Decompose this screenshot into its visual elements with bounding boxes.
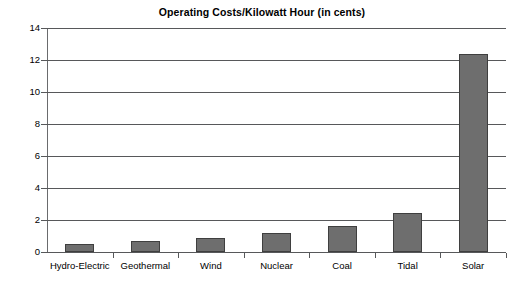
x-tick-mark (440, 253, 441, 258)
x-tick-mark (506, 253, 507, 258)
gridline (47, 92, 506, 93)
gridline (47, 252, 506, 253)
gridline (47, 220, 506, 221)
bar-hydro-electric (65, 244, 94, 252)
y-tick-label: 0 (0, 247, 40, 257)
y-tick-label: 10 (0, 87, 40, 97)
y-tick-label: 4 (0, 183, 40, 193)
x-tick-mark (309, 253, 310, 258)
plot-area (47, 28, 506, 252)
bar-solar (459, 54, 488, 252)
x-category-label: Solar (428, 260, 518, 271)
y-tick-label: 6 (0, 151, 40, 161)
bar-coal (328, 226, 357, 252)
y-tick-label: 12 (0, 55, 40, 65)
bar-wind (196, 238, 225, 252)
y-tick-label: 8 (0, 119, 40, 129)
y-tick-label: 14 (0, 23, 40, 33)
gridline (47, 188, 506, 189)
x-tick-mark (178, 253, 179, 258)
gridline (47, 60, 506, 61)
gridline (47, 156, 506, 157)
bar-geothermal (131, 241, 160, 252)
chart-title: Operating Costs/Kilowatt Hour (in cents) (0, 6, 524, 18)
x-tick-mark (244, 253, 245, 258)
gridline (47, 124, 506, 125)
gridline (47, 28, 506, 29)
x-tick-mark (113, 253, 114, 258)
bar-tidal (393, 213, 422, 252)
x-tick-mark (375, 253, 376, 258)
y-tick-label: 2 (0, 215, 40, 225)
bar-nuclear (262, 233, 291, 252)
bar-chart: Operating Costs/Kilowatt Hour (in cents)… (0, 0, 524, 290)
